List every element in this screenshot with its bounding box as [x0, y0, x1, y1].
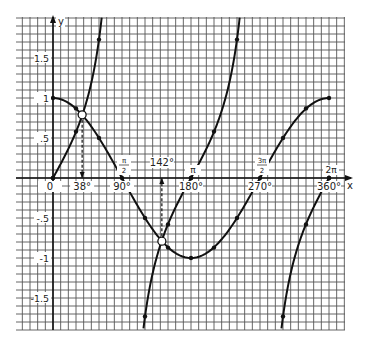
tangent-point	[143, 314, 147, 318]
axis-point	[189, 176, 193, 180]
pi-label-numerator: 3π	[258, 157, 267, 165]
cosine-point	[235, 216, 239, 220]
trig-graph: yx1.51.5-.5-1-1.5038°90°π2142°180°π270°3…	[0, 0, 374, 351]
y-axis-label: y	[58, 16, 64, 27]
cosine-point	[97, 136, 101, 140]
x-tick-label: 270°	[248, 181, 272, 192]
tangent-point	[304, 222, 308, 226]
pi-label-denominator: 2	[122, 167, 126, 175]
x-tick-label: 0	[47, 181, 53, 192]
cosine-point	[327, 96, 331, 100]
y-tick-label: -1	[40, 253, 49, 264]
x-tick-label: 90°	[113, 181, 131, 192]
x-tick-label: 360°	[317, 181, 341, 192]
x-tick-label: 180°	[179, 181, 203, 192]
axis-point	[51, 176, 55, 180]
y-tick-label: -.5	[37, 213, 50, 224]
axes	[16, 15, 353, 330]
cosine-point	[212, 245, 216, 249]
y-tick-label: .5	[40, 133, 49, 144]
axis-point	[327, 176, 331, 180]
tangent-point	[166, 222, 170, 226]
tangent-point	[97, 37, 101, 41]
axis-point	[120, 176, 124, 180]
tangent-point	[74, 129, 78, 133]
x-tick-label: 142°	[150, 157, 174, 168]
tangent-point	[281, 314, 285, 318]
cosine-point	[304, 106, 308, 110]
axis-point	[258, 176, 262, 180]
y-tick-label: -1.5	[30, 293, 49, 304]
y-tick-label: 1.5	[34, 53, 49, 64]
x-tick-label: 38°	[73, 181, 91, 192]
cosine-point	[166, 245, 170, 249]
cosine-point	[281, 136, 285, 140]
pi-label: 2π	[325, 165, 337, 175]
cosine-point	[74, 106, 78, 110]
intersection-point	[78, 111, 86, 119]
tangent-point	[212, 129, 216, 133]
pi-label-denominator: 2	[260, 167, 264, 175]
y-tick-label: 1	[43, 93, 49, 104]
cosine-point	[189, 256, 193, 260]
y-axis-arrow-icon	[50, 15, 56, 23]
tangent-point	[235, 37, 239, 41]
grid	[16, 17, 345, 330]
x-axis-label: x	[347, 180, 353, 191]
intersection-point	[158, 237, 166, 245]
cosine-point	[143, 216, 147, 220]
pi-label: π	[190, 165, 196, 175]
cosine-point	[51, 96, 55, 100]
